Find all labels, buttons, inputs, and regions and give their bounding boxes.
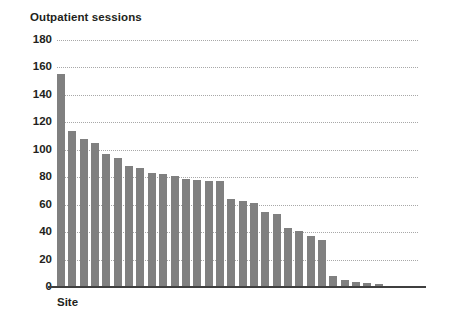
plot-area xyxy=(57,40,418,287)
y-tick-label: 140 xyxy=(18,89,52,101)
bar xyxy=(125,166,133,287)
bar xyxy=(295,231,303,287)
y-tick-label: 40 xyxy=(18,226,52,238)
bar xyxy=(284,228,292,287)
bar xyxy=(216,181,224,287)
y-axis: 180160140120100806040200 xyxy=(12,40,52,287)
bar xyxy=(318,240,326,287)
y-tick-label: 0 xyxy=(18,281,52,293)
bar xyxy=(250,203,258,287)
bar xyxy=(261,212,269,287)
bar xyxy=(227,199,235,287)
bar xyxy=(136,168,144,287)
bar xyxy=(102,154,110,287)
bar xyxy=(182,179,190,287)
bar xyxy=(91,143,99,287)
bar xyxy=(148,173,156,287)
y-tick-label: 20 xyxy=(18,254,52,266)
y-tick-label: 80 xyxy=(18,171,52,183)
bar-series xyxy=(57,40,418,287)
bar xyxy=(171,176,179,287)
chart-title: Outpatient sessions xyxy=(30,11,142,23)
outpatient-sessions-bar-chart: Outpatient sessions 18016014012010080604… xyxy=(0,0,455,330)
bar xyxy=(239,201,247,287)
y-tick-label: 180 xyxy=(18,34,52,46)
x-axis-line xyxy=(48,286,426,288)
bar xyxy=(205,181,213,287)
bar xyxy=(68,131,76,287)
bar xyxy=(57,74,65,287)
bar xyxy=(114,158,122,287)
bar xyxy=(80,139,88,287)
y-tick-label: 160 xyxy=(18,62,52,74)
y-tick-label: 120 xyxy=(18,117,52,129)
bar xyxy=(273,214,281,287)
bar xyxy=(307,236,315,287)
bar xyxy=(193,180,201,287)
x-axis-label: Site xyxy=(57,296,78,308)
bar xyxy=(159,174,167,287)
y-tick-label: 60 xyxy=(18,199,52,211)
y-tick-label: 100 xyxy=(18,144,52,156)
